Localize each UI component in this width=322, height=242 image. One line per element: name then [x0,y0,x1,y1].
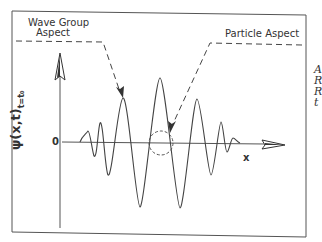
x-axis [62,140,285,149]
wave-group-leader [16,41,124,98]
wave-group-arrow-icon [116,86,124,98]
particle-leader [168,43,302,133]
wave-group-label-line2: Aspect [36,27,70,38]
diagram-frame [12,11,306,237]
y-axis-label-main: ψ(x,t) [8,108,23,150]
clipped-side-text: A R R t [314,64,322,108]
particle-aspect-label: Particle Aspect [225,28,299,39]
y-axis-label: ψ(x,t)t=t₀ [8,90,26,150]
origin-label: 0 [52,136,59,147]
y-axis-label-sub: t=t₀ [17,90,26,108]
x-axis-label: x [243,152,249,163]
